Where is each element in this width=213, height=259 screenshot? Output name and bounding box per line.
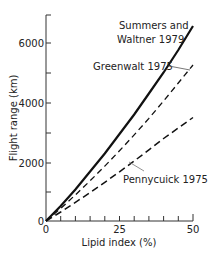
flight-range-chart: 6000 4000 2000 0 0 25 50 Lipid index (%)… <box>0 0 213 259</box>
line-summers-waltner-1979 <box>46 26 193 221</box>
annotations: Summers and Waltner 1979 Greenwalt 1975 … <box>93 20 208 185</box>
y-tick-6000: 6000 <box>19 38 44 49</box>
y-ticks <box>46 43 51 192</box>
x-tick-50: 50 <box>187 224 200 235</box>
series <box>46 26 193 221</box>
x-tick-0: 0 <box>43 224 49 235</box>
label-pennycuick: Pennycuick 1975 <box>123 174 208 185</box>
x-tick-25: 25 <box>113 224 126 235</box>
label-summers-line1: Summers and <box>119 20 189 31</box>
label-greenwalt: Greenwalt 1975 <box>93 61 173 72</box>
y-tick-4000: 4000 <box>19 98 44 109</box>
label-summers-line2: Waltner 1979 <box>117 34 184 45</box>
leader-pennycuick <box>129 162 144 171</box>
x-ticks <box>61 214 193 221</box>
y-tick-2000: 2000 <box>19 158 44 169</box>
x-axis-label: Lipid index (%) <box>82 237 157 248</box>
axes <box>46 15 193 221</box>
y-axis-label: Flight range (km) <box>8 75 19 162</box>
